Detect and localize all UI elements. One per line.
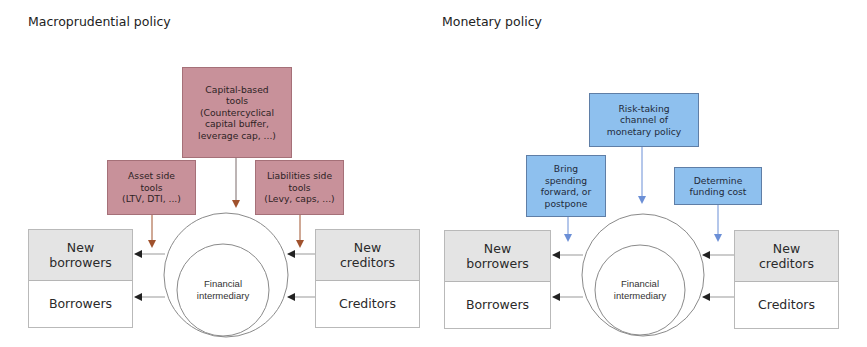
liabilities-side-tools-box: Liabilities side tools (Levy, caps, ...) bbox=[255, 160, 344, 215]
monetary-creditors-box: New creditors Creditors bbox=[734, 230, 839, 329]
risk-taking-channel-box: Risk-taking channel of monetary policy bbox=[589, 93, 699, 147]
monetary-creditors: Creditors bbox=[735, 281, 838, 328]
macro-panel-title: Macroprudential policy bbox=[28, 14, 171, 29]
monetary-new-creditors: New creditors bbox=[735, 231, 838, 282]
macro-financial-intermediary-label: Financial intermediary bbox=[178, 278, 268, 302]
capital-based-tools-box: Capital-based tools (Countercyclical cap… bbox=[182, 67, 292, 158]
macro-new-borrowers: New borrowers bbox=[29, 230, 132, 281]
determine-funding-cost-box: Determine funding cost bbox=[674, 167, 762, 205]
macro-borrowers-box: New borrowers Borrowers bbox=[28, 229, 133, 328]
bring-spending-forward-box: Bring spending forward, or postpone bbox=[526, 155, 606, 217]
monetary-borrowers-box: New borrowers Borrowers bbox=[444, 230, 551, 329]
monetary-new-borrowers: New borrowers bbox=[445, 231, 550, 282]
macro-outer-circle bbox=[164, 213, 288, 337]
macro-borrowers: Borrowers bbox=[29, 280, 132, 327]
macro-new-creditors: New creditors bbox=[316, 230, 419, 281]
macro-creditors: Creditors bbox=[316, 280, 419, 327]
asset-side-tools-box: Asset side tools (LTV, DTI, ...) bbox=[107, 160, 196, 215]
monetary-panel-title: Monetary policy bbox=[442, 14, 542, 29]
monetary-outer-circle bbox=[582, 214, 704, 336]
monetary-financial-intermediary-label: Financial intermediary bbox=[595, 278, 685, 302]
monetary-borrowers: Borrowers bbox=[445, 281, 550, 328]
macro-creditors-box: New creditors Creditors bbox=[315, 229, 420, 328]
